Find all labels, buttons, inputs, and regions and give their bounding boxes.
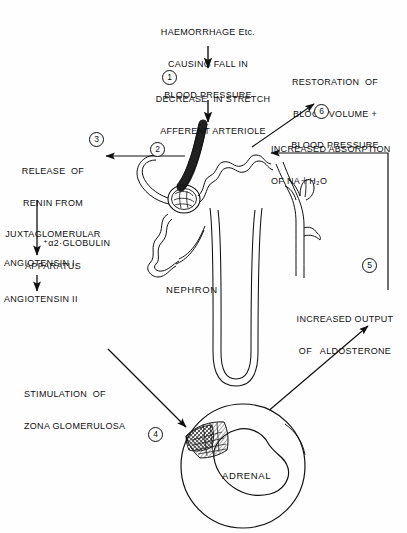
node-globulin-label: ⁺α2·GLOBULIN bbox=[43, 238, 110, 249]
marker-5: 5 bbox=[362, 258, 377, 273]
nephron-label: NEPHRON bbox=[166, 284, 218, 295]
aldosterone-output-line-1: INCREASED OUTPUT bbox=[297, 314, 394, 325]
node-angiotensin-2-label: ANGIOTENSIN II bbox=[4, 294, 78, 305]
node-aldosterone-output-label: INCREASED OUTPUT OF ALDOSTERONE bbox=[297, 293, 394, 377]
increased-absorption-line-2: OF NA＋H₂O bbox=[271, 176, 391, 187]
restoration-line-1: RESTORATION OF bbox=[291, 77, 379, 88]
increased-absorption-line-1: INCREASED ABSORPTION bbox=[271, 144, 391, 155]
diagram-canvas: HAEMORRHAGE Etc. CAUSING FALL IN BLOOD P… bbox=[0, 0, 407, 533]
marker-6: 6 bbox=[314, 104, 329, 119]
renin-release-line-1: RELEASE OF bbox=[5, 166, 100, 177]
marker-2: 2 bbox=[150, 142, 165, 157]
restoration-line-2: BLOOD VOLUME + bbox=[291, 109, 379, 120]
node-angiotensin-1-label: ANGIOTENSIN I. bbox=[4, 258, 78, 269]
decrease-stretch-line-1: DECREASE IN STRETCH bbox=[156, 94, 271, 105]
haemorrhage-line-2: CAUSING FALL IN bbox=[161, 59, 255, 70]
adrenal-illustration bbox=[181, 404, 305, 528]
aldosterone-output-line-2: OF ALDOSTERONE bbox=[297, 346, 394, 357]
decrease-stretch-line-2: AFFERENT ARTERIOLE bbox=[156, 126, 271, 137]
node-renin-release-label: RELEASE OF RENIN FROM JUXTAGLOMERULAR AP… bbox=[5, 145, 100, 292]
haemorrhage-line-1: HAEMORRHAGE Etc. bbox=[161, 27, 255, 38]
stimulation-zona-line-2: ZONA GLOMERULOSA bbox=[24, 421, 125, 432]
adrenal-label: ADRENAL bbox=[222, 470, 271, 481]
node-decrease-stretch-label: DECREASE IN STRETCH AFFERENT ARTERIOLE bbox=[156, 73, 271, 157]
node-stimulation-zona-label: STIMULATION OF ZONA GLOMERULOSA bbox=[24, 368, 125, 452]
stimulation-zona-line-1: STIMULATION OF bbox=[24, 389, 125, 400]
renin-release-line-2: RENIN FROM bbox=[5, 198, 100, 209]
node-increased-absorption-label: INCREASED ABSORPTION OF NA＋H₂O bbox=[271, 123, 391, 207]
marker-4: 4 bbox=[148, 427, 163, 442]
